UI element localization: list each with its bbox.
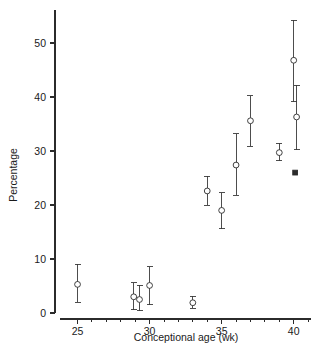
marker-open-circle bbox=[190, 300, 196, 306]
marker-open-circle bbox=[233, 162, 239, 168]
x-axis-title: Conceptional age (wk) bbox=[134, 331, 238, 343]
marker-open-circle bbox=[291, 57, 297, 63]
data-point bbox=[294, 85, 300, 150]
data-point bbox=[293, 170, 298, 175]
data-point bbox=[291, 20, 297, 102]
marker-open-circle bbox=[147, 283, 153, 289]
data-point bbox=[219, 193, 225, 229]
y-tick-label-50: 50 bbox=[34, 37, 46, 49]
data-point bbox=[247, 96, 253, 146]
y-tick-label-0: 0 bbox=[40, 307, 46, 319]
series-1 bbox=[293, 170, 298, 175]
marker-open-circle bbox=[75, 281, 81, 287]
x-tick-label-40: 40 bbox=[288, 325, 300, 337]
data-point bbox=[190, 296, 196, 308]
marker-open-circle bbox=[248, 118, 254, 124]
data-point bbox=[75, 264, 81, 302]
y-tick-label-40: 40 bbox=[34, 91, 46, 103]
marker-open-circle bbox=[219, 208, 225, 214]
series-0 bbox=[75, 20, 300, 311]
y-tick-label-30: 30 bbox=[34, 145, 46, 157]
data-point bbox=[131, 283, 137, 310]
marker-open-circle bbox=[131, 294, 137, 300]
y-axis: 01020304050 bbox=[34, 10, 55, 319]
data-point bbox=[276, 143, 282, 160]
data-point bbox=[147, 267, 153, 305]
data-points-layer bbox=[75, 20, 300, 311]
marker-open-circle bbox=[204, 188, 210, 194]
marker-open-circle bbox=[137, 297, 143, 303]
y-axis-title: Percentage bbox=[7, 148, 19, 202]
y-tick-label-20: 20 bbox=[34, 199, 46, 211]
marker-open-circle bbox=[276, 150, 282, 156]
data-point bbox=[233, 134, 239, 196]
marker-filled-square bbox=[293, 170, 298, 175]
data-point bbox=[204, 176, 210, 205]
marker-open-circle bbox=[294, 114, 300, 120]
chart-figure: 01020304050 25303540 Percentage Concepti… bbox=[0, 0, 322, 347]
scatter-plot: 01020304050 25303540 Percentage Concepti… bbox=[0, 0, 322, 347]
y-tick-label-10: 10 bbox=[34, 253, 46, 265]
data-point bbox=[137, 285, 143, 310]
x-tick-label-25: 25 bbox=[72, 325, 84, 337]
